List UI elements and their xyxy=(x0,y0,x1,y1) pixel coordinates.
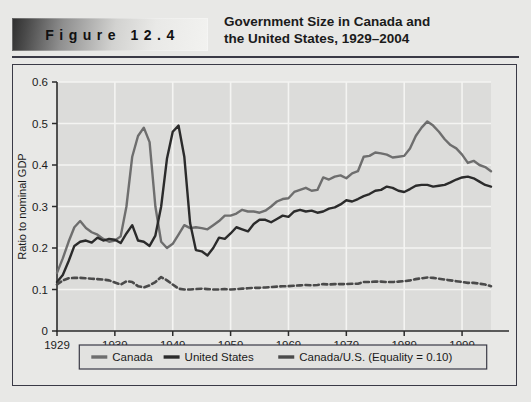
y-axis-tick-label: 0.3 xyxy=(32,201,48,213)
figure-title-line-1: Government Size in Canada and xyxy=(224,13,524,30)
y-axis-tick-label: 0.4 xyxy=(32,159,49,171)
legend-label-0: Canada xyxy=(112,351,153,363)
x-axis-tick-label: 1929 xyxy=(44,339,70,351)
y-axis-title: Ratio to nominal GDP xyxy=(16,153,28,259)
y-axis-tick-label: 0.6 xyxy=(32,76,48,88)
figure-header: Figure 12.4 Government Size in Canada an… xyxy=(0,0,531,62)
y-axis-tick-label: 0 xyxy=(42,325,48,337)
chart-container: 00.10.20.30.40.50.6192919391949195919691… xyxy=(12,64,517,386)
y-axis-tick-label: 0.1 xyxy=(32,284,48,296)
figure-number-label: Figure 12.4 xyxy=(40,27,179,43)
y-axis-tick-label: 0.2 xyxy=(32,242,48,254)
figure-title: Government Size in Canada and the United… xyxy=(224,13,524,47)
figure-title-line-2: the United States, 1929–2004 xyxy=(224,30,524,47)
legend-label-1: United States xyxy=(185,351,254,363)
title-divider xyxy=(12,56,519,58)
y-axis-tick-label: 0.5 xyxy=(32,118,48,130)
line-chart: 00.10.20.30.40.50.6192919391949195919691… xyxy=(13,65,516,385)
legend-label-2: Canada/U.S. (Equality = 0.10) xyxy=(299,351,452,363)
figure-number-badge: Figure 12.4 xyxy=(12,18,208,51)
legend: CanadaUnited StatesCanada/U.S. (Equality… xyxy=(79,345,486,369)
